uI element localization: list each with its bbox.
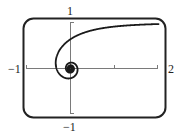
spiral-curve — [56, 24, 159, 78]
x-min-label: −1 — [8, 63, 21, 75]
x-max-label: 2 — [168, 63, 174, 75]
y-max-label: 1 — [67, 5, 73, 17]
axes — [26, 22, 158, 114]
y-min-label: −1 — [63, 121, 76, 133]
plot-area — [0, 0, 181, 135]
